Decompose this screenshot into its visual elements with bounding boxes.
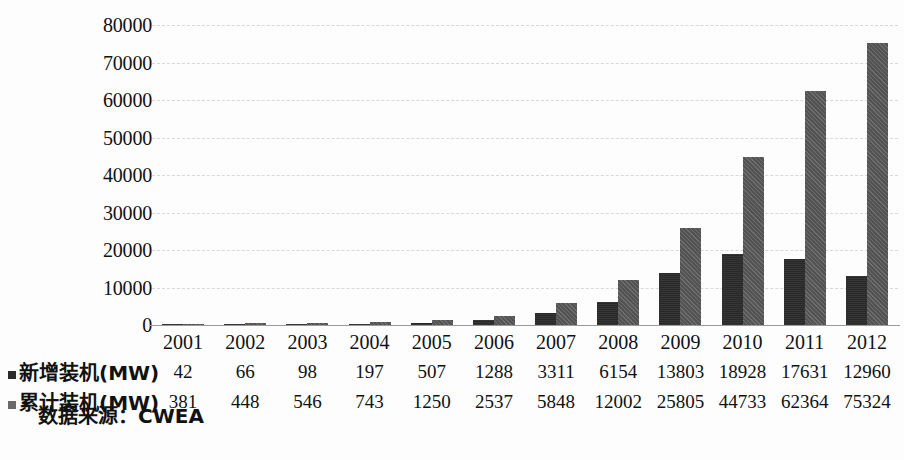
x-axis-tick-label: 2011 xyxy=(774,330,836,354)
bar-group-2007 xyxy=(534,25,578,325)
y-axis-tick-label: 10000 xyxy=(60,278,152,298)
x-axis-tick-label: 2012 xyxy=(836,330,898,354)
table-cell: 12002 xyxy=(587,389,649,415)
table-cell: 546 xyxy=(276,389,338,415)
y-axis-tick-label: 60000 xyxy=(60,90,152,110)
bar-2006-series-2 xyxy=(494,316,515,326)
table-cell: 42 xyxy=(152,359,214,385)
y-axis-tick-label: 20000 xyxy=(60,240,152,260)
bar-group-2010 xyxy=(721,25,765,325)
table-cell: 507 xyxy=(401,359,463,385)
y-axis-tick-label: 50000 xyxy=(60,128,152,148)
chart-figure: 0100002000030000400005000060000700008000… xyxy=(0,0,904,460)
bar-group-2002 xyxy=(223,25,267,325)
legend-swatch-icon xyxy=(8,371,16,379)
bar-group-2012 xyxy=(845,25,889,325)
bar-group-2006 xyxy=(472,25,516,325)
table-cell: 197 xyxy=(339,359,401,385)
table-cell: 6154 xyxy=(587,359,649,385)
table-cell: 12960 xyxy=(836,359,898,385)
table-cell: 17631 xyxy=(774,359,836,385)
table-row: 新增装机(MW) 4266981975071288331161541380318… xyxy=(0,357,904,387)
table-cell: 5848 xyxy=(525,389,587,415)
bar-2009-series-2 xyxy=(680,228,701,325)
source-note: 数据来源：CWEA xyxy=(38,403,204,429)
x-axis-tick-label: 2006 xyxy=(463,330,525,354)
y-axis-tick-label: 80000 xyxy=(60,15,152,35)
bar-2007-series-1 xyxy=(535,313,556,325)
table-cell: 448 xyxy=(214,389,276,415)
bar-2007-series-2 xyxy=(556,303,577,325)
table-cell: 98 xyxy=(276,359,338,385)
bar-2011-series-1 xyxy=(784,259,805,325)
x-axis-labels: 2001200220032004200520062007200820092010… xyxy=(152,330,898,356)
x-axis-tick-label: 2005 xyxy=(401,330,463,354)
table-cell: 13803 xyxy=(649,359,711,385)
x-axis-tick-label: 2002 xyxy=(214,330,276,354)
y-axis-tick-label: 40000 xyxy=(60,165,152,185)
table-cell: 25805 xyxy=(649,389,711,415)
bar-2012-series-2 xyxy=(867,43,888,325)
table-cell: 2537 xyxy=(463,389,525,415)
bar-2008-series-1 xyxy=(597,302,618,325)
series-label-new-capacity: 新增装机(MW) xyxy=(19,361,159,385)
bar-2012-series-1 xyxy=(846,276,867,325)
table-cell: 62364 xyxy=(774,389,836,415)
bar-group-2003 xyxy=(285,25,329,325)
table-cell: 1288 xyxy=(463,359,525,385)
plot-area xyxy=(152,25,898,325)
bar-group-2005 xyxy=(410,25,454,325)
x-axis-tick-label: 2010 xyxy=(712,330,774,354)
bar-group-2008 xyxy=(596,25,640,325)
x-axis-tick-label: 2008 xyxy=(587,330,649,354)
table-cell: 3311 xyxy=(525,359,587,385)
bar-group-2001 xyxy=(161,25,205,325)
bar-2010-series-1 xyxy=(722,254,743,325)
table-cell: 66 xyxy=(214,359,276,385)
bar-2011-series-2 xyxy=(805,91,826,325)
y-axis-tick-label: 70000 xyxy=(60,53,152,73)
x-axis-tick-label: 2004 xyxy=(339,330,401,354)
x-axis-tick-label: 2003 xyxy=(276,330,338,354)
x-axis-tick-label: 2007 xyxy=(525,330,587,354)
x-axis-baseline xyxy=(150,325,900,326)
x-axis-tick-label: 2001 xyxy=(152,330,214,354)
table-cell: 1250 xyxy=(401,389,463,415)
y-axis-tick-label: 30000 xyxy=(60,203,152,223)
bar-group-2009 xyxy=(658,25,702,325)
bar-group-2004 xyxy=(348,25,392,325)
table-cell: 18928 xyxy=(712,359,774,385)
legend-item-new-capacity: 新增装机(MW) xyxy=(8,361,159,385)
y-axis: 0100002000030000400005000060000700008000… xyxy=(48,0,152,330)
bar-2009-series-1 xyxy=(659,273,680,325)
y-axis-tick-label: 0 xyxy=(60,315,152,335)
x-axis-tick-label: 2009 xyxy=(649,330,711,354)
bar-2010-series-2 xyxy=(743,157,764,325)
legend-swatch-icon xyxy=(8,401,16,409)
bar-2008-series-2 xyxy=(618,280,639,325)
table-cell: 743 xyxy=(339,389,401,415)
table-cell: 44733 xyxy=(712,389,774,415)
bar-group-2011 xyxy=(783,25,827,325)
table-cell: 75324 xyxy=(836,389,898,415)
